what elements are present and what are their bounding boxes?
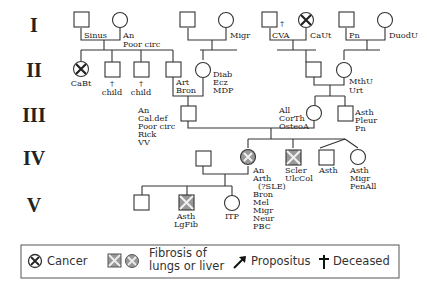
- generation-label-II: II: [26, 59, 42, 81]
- legend-propositus-label: Propositus: [251, 254, 311, 268]
- individual-I-1: [74, 12, 89, 27]
- legend: Cancer Fibrosis of lungs or liver Propos…: [21, 245, 399, 278]
- generation-label-I: I: [30, 14, 38, 36]
- descent-line-I7: [344, 40, 380, 60]
- legend-cancer-label: Cancer: [47, 254, 88, 268]
- label-I-5: CVA: [272, 30, 290, 40]
- label-I-8: DuodU: [389, 30, 418, 40]
- individual-I-3: [180, 12, 195, 27]
- individual-I-5: [262, 12, 277, 27]
- individual-II-1: [74, 62, 89, 77]
- label-I-1: Sinus: [84, 30, 107, 40]
- legend-fibrosis-label-1: Fibrosis of: [149, 246, 208, 260]
- label-V-2b: LgFib: [174, 219, 198, 229]
- label-I-2b: Poor circ: [123, 39, 161, 49]
- sibling-drops: [81, 50, 173, 62]
- individual-III-1: [181, 106, 196, 121]
- descent-line-I5: [277, 40, 316, 62]
- pedigree-chart: I II III IV V Sinus An Poor circ: [0, 0, 438, 285]
- individual-IV-1: [196, 151, 211, 166]
- label-V-3: ITP: [225, 211, 240, 221]
- label-II-5c: MDP: [213, 85, 234, 95]
- sibship-line-III: [315, 85, 345, 108]
- individual-I-7: [339, 12, 354, 27]
- individual-III-3: [338, 106, 353, 121]
- label-IV-5c: PenAll: [350, 181, 377, 191]
- legend-fibrosis-label-2: lungs or liver: [149, 259, 224, 273]
- label-IV-3b: UlcCol: [285, 173, 313, 183]
- generation-label-IV: IV: [23, 147, 46, 169]
- label-I-6: CaUt: [310, 30, 332, 40]
- sibship-line-V: [142, 174, 232, 195]
- individual-I-2: [113, 13, 128, 28]
- label-III-1e: VV: [137, 137, 151, 147]
- individual-V-1: [134, 195, 149, 210]
- individual-V-2: [179, 195, 194, 210]
- marriage-line-IV1-IV2: [203, 166, 248, 174]
- individual-IV-4: [319, 150, 334, 165]
- individual-I-4: [219, 13, 234, 28]
- individual-II-3: [134, 62, 149, 77]
- label-II-4b: Bron: [176, 85, 197, 95]
- individual-V-3: [225, 196, 240, 211]
- label-I-4: Migr: [230, 30, 250, 40]
- individual-IV-3: [286, 150, 301, 165]
- deceased-mark-I-5: †: [280, 18, 284, 28]
- individual-II-6: [306, 62, 321, 77]
- label-II-2: child: [102, 87, 122, 97]
- label-III-3c: Pn: [355, 123, 367, 133]
- legend-fibrosis-square-icon: [108, 254, 121, 267]
- individual-III-2: [307, 106, 322, 121]
- individual-I-8: [378, 13, 393, 28]
- label-I-7: Pn: [349, 30, 361, 40]
- individual-II-5: [196, 63, 211, 78]
- label-III-2c: OsteoA: [279, 121, 309, 131]
- label-II-7b: Urt: [349, 85, 364, 95]
- individual-IV-5: [351, 150, 366, 165]
- individual-II-2: [105, 62, 120, 77]
- generation-label-V: V: [27, 194, 42, 216]
- individual-IV-2: [241, 150, 256, 165]
- descent-line-I3: [200, 40, 237, 60]
- label-IV-2h: PBC: [253, 221, 271, 231]
- legend-cancer-icon: [29, 255, 42, 268]
- label-II-1: CaBt: [71, 78, 92, 88]
- label-IV-4: Asth: [318, 165, 338, 175]
- individual-I-6: [299, 13, 314, 28]
- legend-deceased-label: Deceased: [333, 254, 390, 268]
- sibship-line-IV: [248, 128, 345, 148]
- label-II-3: child: [131, 87, 151, 97]
- legend-fibrosis-circle-icon: [126, 255, 139, 268]
- twin-lines: [320, 139, 358, 148]
- generation-label-III: III: [22, 104, 46, 126]
- individual-II-4: [166, 62, 181, 77]
- marriage-line-I3-I4: [188, 28, 226, 40]
